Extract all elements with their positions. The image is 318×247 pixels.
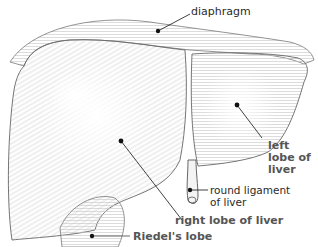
label-round-ligament-line1: round ligament bbox=[210, 184, 290, 196]
label-diaphragm: diaphragm bbox=[191, 6, 251, 18]
label-left-lobe-line3: liver bbox=[268, 163, 296, 176]
round-ligament-shape bbox=[187, 160, 198, 203]
left-lobe-shape bbox=[191, 53, 307, 166]
label-right-lobe: right lobe of liver bbox=[175, 214, 283, 227]
liver-illustration bbox=[0, 0, 318, 247]
label-round-ligament-line2: of liver bbox=[210, 196, 246, 208]
label-riedels-lobe: Riedel's lobe bbox=[133, 230, 212, 243]
